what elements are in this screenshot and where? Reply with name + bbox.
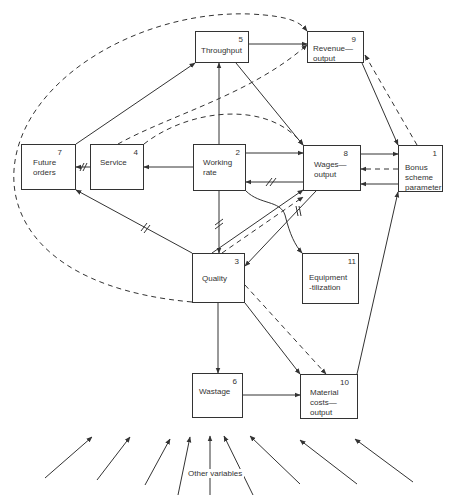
node-quality: 3 Quality — [192, 253, 245, 303]
node-number: 11 — [348, 257, 356, 266]
dashed-quality-to-wages — [222, 197, 303, 253]
arrow-future-orders-to-throughput — [76, 63, 195, 144]
node-material-costs-output: 10 Material costs— output — [300, 374, 358, 419]
other-variables-label: Other variables — [186, 469, 244, 478]
node-working-rate: 2 Working rate — [193, 144, 246, 191]
node-number: 10 — [340, 378, 349, 387]
node-number: 7 — [58, 148, 62, 157]
node-label: Future orders — [33, 158, 56, 178]
node-number: 3 — [235, 257, 239, 266]
arrow-quality-to-future-orders — [76, 190, 192, 253]
node-equipment-utilization: 11 Equipment -tilization — [302, 253, 359, 304]
node-number: 8 — [344, 149, 348, 158]
node-label: Bonus scheme parameter — [405, 163, 441, 193]
node-label: Material costs— output — [310, 388, 338, 418]
arrow-throughput-to-wages — [236, 63, 303, 145]
node-future-orders: 7 Future orders — [21, 144, 76, 190]
node-service: 4 Service — [90, 144, 144, 190]
node-label: Wages— output — [314, 160, 347, 180]
node-wages-output: 8 Wages— output — [303, 145, 361, 191]
node-number: 5 — [239, 35, 243, 44]
arrow-revenue-to-bonus — [362, 63, 398, 145]
arrow-quality-to-material — [245, 303, 300, 374]
node-wastage: 6 Wastage — [192, 373, 243, 418]
node-label: Service — [100, 158, 127, 168]
node-label: Revenue— output — [313, 44, 353, 64]
arrow-quality-to-wages — [212, 190, 303, 253]
node-number: 6 — [233, 377, 237, 386]
node-number: 4 — [134, 148, 138, 157]
node-revenue-output: 9 Revenue— output — [307, 31, 364, 63]
influence-diagram: 1 Bonus scheme parameter 2 Working rate … — [0, 0, 450, 499]
other-variables-arrows — [45, 436, 413, 495]
node-label: Wastage — [199, 387, 230, 397]
node-bonus-scheme-parameter: 1 Bonus scheme parameter — [398, 145, 443, 192]
node-number: 1 — [433, 149, 437, 158]
node-label: Quality — [202, 274, 227, 284]
dashed-service-to-wages — [144, 114, 303, 145]
node-label: Throughput — [201, 46, 242, 56]
diagram-connectors — [0, 0, 450, 499]
node-number: 9 — [352, 35, 356, 44]
arrow-material-to-bonus — [357, 192, 398, 374]
node-number: 2 — [236, 148, 240, 157]
node-throughput: 5 Throughput — [195, 31, 249, 63]
node-label: Working rate — [203, 158, 232, 178]
node-label: Equipment -tilization — [309, 273, 347, 293]
dashed-bonus-to-revenue — [365, 55, 417, 145]
arrow-working-rate-to-equipment — [246, 191, 302, 253]
